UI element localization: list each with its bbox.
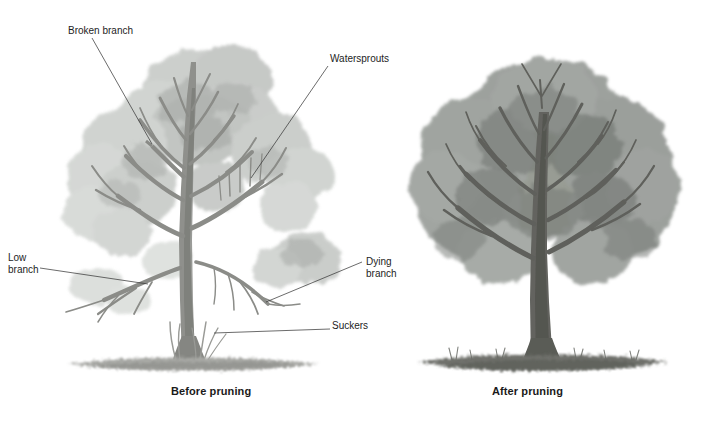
pruning-figure: Broken branch Watersprouts Low branch Dy… [0,0,718,421]
callout-low-branch: Low branch [8,252,39,275]
callout-watersprouts: Watersprouts [330,53,389,65]
callout-broken-branch: Broken branch [68,25,133,37]
callout-dying-branch: Dying branch [366,256,397,279]
callout-suckers: Suckers [332,320,368,332]
caption-before-pruning: Before pruning [171,385,251,397]
caption-after-pruning: After pruning [492,385,563,397]
